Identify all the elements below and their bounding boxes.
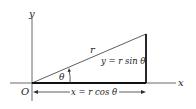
origin-label: O (21, 86, 29, 97)
angle-label: θ (59, 72, 65, 82)
arrow-right-icon (141, 90, 146, 94)
arrow-left-icon (33, 90, 38, 94)
y-axis-label: y (28, 8, 35, 19)
vertical-side-label: y = r sin θ (100, 56, 145, 66)
x-axis-label: x (178, 77, 184, 88)
polar-coordinates-diagram: y x O r θ y = r sin θ x = r cos θ (0, 0, 196, 109)
hypotenuse-label: r (90, 44, 96, 55)
angle-arrow-icon (68, 68, 72, 72)
horizontal-side-label: x = r cos θ (71, 87, 117, 97)
angle-arc (69, 70, 70, 83)
